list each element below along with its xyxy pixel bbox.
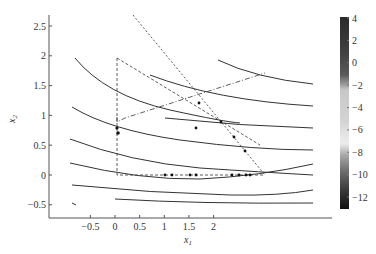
marker	[231, 174, 234, 177]
marker	[115, 126, 118, 129]
contour-line	[218, 60, 313, 84]
y-tick-label: 0.5	[34, 140, 47, 151]
marker	[244, 150, 247, 153]
y-tick-label: 2	[41, 50, 46, 61]
y-tick-label: 0	[41, 170, 46, 181]
colorbar-tick-label: −2	[352, 80, 363, 91]
x-tick-label: 1.5	[183, 221, 196, 232]
marker	[189, 174, 192, 177]
colorbar-tick-label: 0	[352, 57, 357, 68]
colorbar-ticks: 420−2−4−6−8−10−12	[347, 13, 368, 203]
y-axis-label: x2	[6, 115, 19, 124]
contour-line	[72, 185, 313, 195]
contour-line	[72, 107, 313, 150]
x-tick-label: −0.5	[81, 221, 99, 232]
x-axis-label: x1	[183, 234, 192, 247]
x-tick-label: 2	[211, 221, 216, 232]
marker	[249, 174, 252, 177]
marker	[238, 174, 241, 177]
colorbar-tick-label: −6	[352, 124, 363, 135]
colorbar-tick-label: −8	[352, 147, 363, 158]
contour-line	[75, 58, 240, 123]
contour-line	[115, 199, 313, 203]
x-tick-label: 0	[113, 221, 118, 232]
colorbar-tick-label: 2	[352, 35, 357, 46]
contour-line	[72, 203, 76, 205]
marker	[220, 121, 223, 124]
trajectories	[117, 15, 265, 175]
contour-line	[150, 75, 313, 106]
colorbar	[340, 17, 349, 209]
trajectory-dashed-l-path	[117, 58, 265, 175]
contour-line	[70, 163, 313, 179]
contour-line	[70, 139, 313, 175]
marker	[198, 102, 201, 105]
marker	[195, 174, 198, 177]
colorbar-tick-label: −4	[352, 102, 363, 113]
y-tick-label: 1	[41, 110, 46, 121]
marker	[171, 174, 174, 177]
contour-chart: −0.500.511.522.5 −0.500.511.52	[0, 0, 376, 254]
y-tick-label: −0.5	[28, 199, 46, 210]
contour-lines	[70, 58, 313, 205]
marker	[164, 174, 167, 177]
colorbar-tick-label: −10	[352, 169, 368, 180]
x-tick-label: 1	[162, 221, 167, 232]
marker	[195, 127, 198, 130]
marker	[116, 131, 120, 135]
marker	[233, 136, 236, 139]
x-tick-label: 0.5	[133, 221, 146, 232]
y-ticks: −0.500.511.522.5	[28, 21, 52, 211]
colorbar-tick-label: 4	[352, 13, 357, 24]
y-tick-label: 1.5	[34, 80, 47, 91]
colorbar-tick-label: −12	[352, 192, 368, 203]
marker	[245, 174, 248, 177]
y-tick-label: 2.5	[34, 21, 47, 32]
